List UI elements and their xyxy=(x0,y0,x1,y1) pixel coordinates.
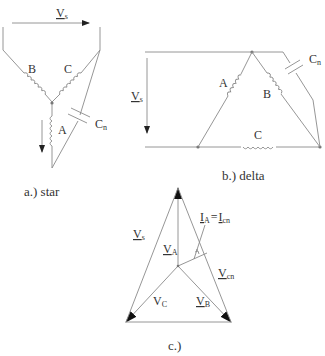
delta-b-wire-low xyxy=(281,94,320,147)
delta-cap-wire-top xyxy=(252,52,290,63)
star-cap-plate-1 xyxy=(71,108,90,117)
phasor-ia-line xyxy=(194,225,205,259)
figure-canvas: Vs B C A Cn a.) s xyxy=(0,0,325,356)
phasor-center-node xyxy=(177,265,180,268)
delta-caption: b.) delta xyxy=(222,168,265,183)
phasor-vs-label: Vs xyxy=(133,227,145,242)
delta-diagram: Vs A B C Cn b.) delta xyxy=(131,50,322,183)
star-vs-label: Vs xyxy=(56,6,68,21)
delta-a-wire-low xyxy=(198,96,228,147)
delta-cap-wire-mid xyxy=(296,73,313,100)
star-left-terminal-wire xyxy=(3,27,24,73)
phasor-current-label: IA=Icn xyxy=(200,210,230,225)
phasor-vcn-label: Vcn xyxy=(218,266,234,281)
phasor-vc-label: VC xyxy=(153,294,167,309)
star-coil-b-label: B xyxy=(28,62,36,76)
star-coil-a xyxy=(50,116,52,146)
star-cap-label: Cn xyxy=(95,117,107,132)
delta-coil-c-label: C xyxy=(254,128,262,142)
delta-vs-label: Vs xyxy=(131,89,143,104)
phasor-diagram: Vs VA VC VB Vcn IA=Icn c.) xyxy=(126,188,234,353)
star-b-to-center xyxy=(45,94,52,102)
delta-b-wire-high xyxy=(252,52,267,73)
delta-cap-label: Cn xyxy=(309,52,321,67)
delta-cap-wire-low xyxy=(313,100,320,147)
delta-a-wire-high xyxy=(241,52,252,74)
phasor-angle-dot xyxy=(196,249,198,251)
star-right-terminal-wire xyxy=(81,27,100,73)
phasor-vc-vector xyxy=(126,266,178,322)
star-c-to-center xyxy=(52,94,60,102)
delta-coil-b-label: B xyxy=(263,87,271,101)
phasor-caption: c.) xyxy=(168,338,181,353)
delta-coil-a-label: A xyxy=(219,76,228,90)
phasor-vb-label: VB xyxy=(196,294,210,309)
star-caption: a.) star xyxy=(24,184,60,199)
star-coil-a-label: A xyxy=(58,123,67,137)
star-coil-c-label: C xyxy=(64,62,72,76)
delta-coil-a xyxy=(226,74,241,96)
star-diagram: Vs B C A Cn a.) s xyxy=(3,6,107,199)
phasor-perp-line xyxy=(178,253,207,266)
phasor-va-label: VA xyxy=(163,242,178,257)
star-cap-wire-top xyxy=(80,50,100,115)
circuit-figure: Vs B C A Cn a.) s xyxy=(0,0,325,356)
